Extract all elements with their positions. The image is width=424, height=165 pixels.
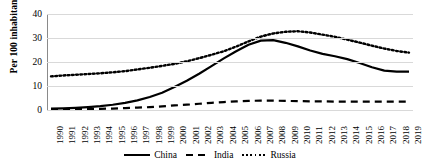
x-tick-label-2001: 2001 xyxy=(191,114,202,144)
legend-label-india: India xyxy=(214,150,234,161)
gridline-30 xyxy=(47,38,413,39)
legend-swatch-china-icon xyxy=(124,151,150,159)
legend-label-russia: Russia xyxy=(270,150,295,161)
y-tick-label-40: 40 xyxy=(20,9,42,19)
x-tick-label-1995: 1995 xyxy=(117,114,128,144)
x-tick-label-1998: 1998 xyxy=(154,114,165,144)
x-tick-label-1992: 1992 xyxy=(80,114,91,144)
y-tick-label-10: 10 xyxy=(20,81,42,91)
chart-legend: ChinaIndiaRussia xyxy=(0,148,420,162)
gridline-10 xyxy=(47,86,413,87)
x-tick-label-2007: 2007 xyxy=(265,114,276,144)
x-tick-label-2000: 2000 xyxy=(178,114,189,144)
legend-item-russia[interactable]: Russia xyxy=(242,150,295,161)
x-tick-label-2005: 2005 xyxy=(240,114,251,144)
x-tick-label-2004: 2004 xyxy=(228,114,239,144)
x-tick-label-2006: 2006 xyxy=(253,114,264,144)
y-tick-label-0: 0 xyxy=(20,105,42,115)
x-tick-label-1991: 1991 xyxy=(67,114,78,144)
x-tick-label-1996: 1996 xyxy=(129,114,140,144)
x-tick-label-2014: 2014 xyxy=(351,114,362,144)
x-tick-label-1994: 1994 xyxy=(104,114,115,144)
gridline-40 xyxy=(47,14,413,15)
legend-label-china: China xyxy=(154,150,177,161)
x-tick-label-2018: 2018 xyxy=(401,114,412,144)
x-tick-label-1997: 1997 xyxy=(141,114,152,144)
x-tick-label-2017: 2017 xyxy=(388,114,399,144)
plot-area xyxy=(47,14,413,110)
y-tick-label-30: 30 xyxy=(20,33,42,43)
x-tick-label-2015: 2015 xyxy=(364,114,375,144)
gridline-20 xyxy=(47,62,413,63)
x-tick-label-2010: 2010 xyxy=(302,114,313,144)
legend-swatch-russia-icon xyxy=(242,151,266,159)
legend-item-india[interactable]: India xyxy=(186,150,234,161)
x-tick-label-1990: 1990 xyxy=(55,114,66,144)
series-line-china xyxy=(51,40,409,108)
x-tick-label-2016: 2016 xyxy=(376,114,387,144)
x-tick-label-1999: 1999 xyxy=(166,114,177,144)
x-tick-label-2011: 2011 xyxy=(314,114,325,144)
gridline-0 xyxy=(47,110,413,111)
x-tick-label-2013: 2013 xyxy=(339,114,350,144)
y-tick-label-20: 20 xyxy=(20,57,42,67)
x-tick-label-2009: 2009 xyxy=(290,114,301,144)
legend-item-china[interactable]: China xyxy=(124,150,177,161)
x-tick-label-2019: 2019 xyxy=(413,114,424,144)
x-tick-label-2012: 2012 xyxy=(327,114,338,144)
x-tick-label-1993: 1993 xyxy=(92,114,103,144)
x-tick-label-2008: 2008 xyxy=(277,114,288,144)
legend-swatch-india-icon xyxy=(186,151,210,159)
x-tick-label-2002: 2002 xyxy=(203,114,214,144)
x-tick-label-2003: 2003 xyxy=(215,114,226,144)
x-axis-tick-labels: 1990199119921993199419951996199719981999… xyxy=(47,112,413,146)
